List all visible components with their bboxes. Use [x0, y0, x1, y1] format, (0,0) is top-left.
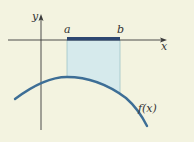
- integral-diagram: y x a b f(x): [0, 0, 194, 142]
- x-axis-label: x: [161, 40, 168, 53]
- a-label: a: [64, 23, 71, 36]
- b-label: b: [117, 23, 124, 36]
- y-axis-label: y: [31, 10, 39, 23]
- interval-bar: [67, 37, 120, 41]
- function-label: f(x): [137, 102, 157, 115]
